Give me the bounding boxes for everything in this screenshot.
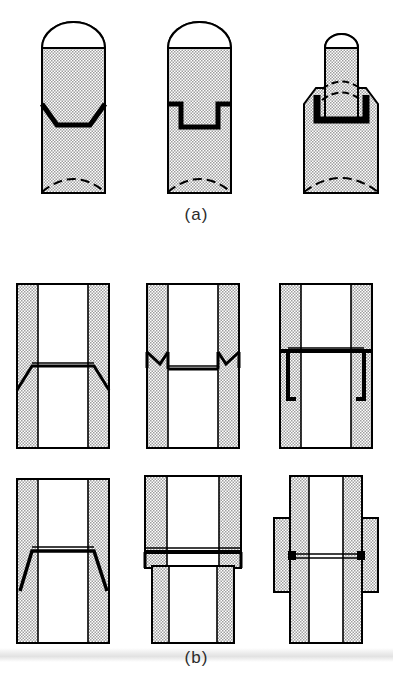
fig-b5-offset-diameter-lap-weld-section	[145, 476, 241, 643]
fig-b3-wall-right	[351, 285, 371, 447]
fig-a2-stepped-rebate-joint	[168, 22, 231, 193]
fig-b5-lower-wall-left	[153, 567, 169, 642]
fig-b3-wall-left	[281, 285, 301, 447]
fig-b3-stepped-socket-weld-section	[280, 284, 372, 448]
panel-b-caption: (b)	[0, 648, 393, 668]
fig-b2-double-v-groove-weld-section	[147, 284, 239, 448]
fig-b6-external-sleeve-collar-weld-section	[274, 476, 378, 643]
fig-b5-lower-wall-right	[217, 567, 233, 642]
fig-b2-wall-left	[148, 285, 168, 447]
weld-joint-diagram	[0, 0, 393, 691]
figure-root: (a) (b)	[0, 0, 393, 691]
fig-b6-weld-bead-left	[288, 551, 296, 560]
fig-b2-wall-right	[218, 285, 238, 447]
panel-a	[42, 22, 378, 193]
fig-b4-inward-bevel-weld-section	[17, 479, 109, 643]
fig-a1-single-bevel-chamfer-joint	[42, 22, 105, 193]
panel-a-caption: (a)	[0, 205, 393, 225]
fig-b1-single-bevel-butt-weld-section	[17, 284, 109, 448]
fig-b6-weld-bead-right	[357, 551, 365, 560]
